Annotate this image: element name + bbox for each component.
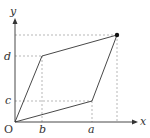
tick-label-d: d xyxy=(4,50,11,63)
vertex-point xyxy=(115,33,119,37)
tick-label-c: c xyxy=(5,94,11,107)
x-axis-arrow-icon xyxy=(132,120,138,125)
origin-label: O xyxy=(4,123,13,136)
x-axis-label: x xyxy=(140,115,147,128)
parallelogram-diagram: y x O b a c d xyxy=(0,0,150,138)
guide-lines xyxy=(15,35,117,122)
tick-label-b: b xyxy=(39,123,46,136)
parallelogram xyxy=(15,35,117,122)
y-axis-arrow-icon xyxy=(13,18,18,24)
y-axis-label: y xyxy=(9,5,17,18)
tick-label-a: a xyxy=(88,123,95,136)
